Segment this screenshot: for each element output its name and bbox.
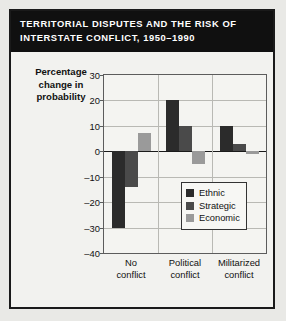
y-tick-label--10: –10 (84, 171, 100, 182)
legend-item-economic: Economic (186, 212, 240, 225)
bar-strategic-political-conflict (179, 126, 192, 151)
y-axis-title-line-3: probability (23, 91, 99, 104)
chart-title-bar: TERRITORIAL DISPUTES AND THE RISK OF INT… (11, 11, 273, 52)
legend-label-economic: Economic (199, 213, 240, 223)
bar-ethnic-no-conflict (112, 151, 125, 227)
y-tick-mark-30 (100, 75, 104, 76)
x-axis-label-1-line-1: Political (158, 257, 212, 269)
x-axis-label-0-line-1: No (104, 257, 158, 269)
x-axis-label-1: Politicalconflict (158, 257, 212, 282)
legend-label-ethnic: Ethnic (199, 188, 225, 198)
y-tick-mark--10 (100, 177, 104, 178)
y-tick-mark--20 (100, 202, 104, 203)
y-axis-title-line-1: Percentage (23, 66, 99, 79)
y-tick-label--20: –20 (84, 197, 100, 208)
chart-title-line-1: TERRITORIAL DISPUTES AND THE RISK OF (20, 17, 264, 31)
y-tick-label-20: 20 (90, 95, 100, 106)
gridline-20 (104, 100, 266, 101)
x-axis-label-0: Noconflict (104, 257, 158, 282)
x-axis-label-2-line-2: conflict (212, 269, 266, 281)
y-axis-title-line-2: change in (23, 79, 99, 92)
bar-ethnic-political-conflict (166, 100, 179, 151)
bar-strategic-no-conflict (125, 151, 138, 187)
y-tick-mark-0 (100, 151, 104, 152)
chart-legend: Ethnic Strategic Economic (181, 182, 247, 230)
y-tick-mark--40 (100, 253, 104, 254)
y-tick-mark--30 (100, 228, 104, 229)
y-tick-mark-20 (100, 100, 104, 101)
category-divider-1 (158, 75, 159, 253)
bar-ethnic-militarized-conflict (220, 126, 233, 151)
legend-item-ethnic: Ethnic (186, 187, 240, 200)
x-axis-label-2-line-1: Militarized (212, 257, 266, 269)
bar-strategic-militarized-conflict (233, 144, 246, 152)
y-tick-label-30: 30 (90, 70, 100, 81)
legend-item-strategic: Strategic (186, 200, 240, 213)
x-axis-label-2: Militarizedconflict (212, 257, 266, 282)
x-axis-label-0-line-2: conflict (104, 269, 158, 281)
y-tick-mark-10 (100, 126, 104, 127)
y-axis-title: Percentage change in probability (23, 66, 99, 104)
chart-title-line-2: INTERSTATE CONFLICT, 1950–1990 (20, 31, 264, 45)
figure-panel: TERRITORIAL DISPUTES AND THE RISK OF INT… (9, 9, 275, 309)
y-tick-label--40: –40 (84, 248, 100, 259)
bar-economic-no-conflict (138, 133, 151, 151)
y-tick-label--30: –30 (84, 222, 100, 233)
legend-swatch-ethnic (186, 189, 194, 197)
x-axis-label-1-line-2: conflict (158, 269, 212, 281)
legend-swatch-strategic (186, 202, 194, 210)
y-tick-label-10: 10 (90, 120, 100, 131)
legend-swatch-economic (186, 214, 194, 222)
legend-label-strategic: Strategic (199, 201, 236, 211)
y-tick-label-0: 0 (95, 146, 100, 157)
bar-economic-political-conflict (192, 151, 205, 164)
bar-economic-militarized-conflict (246, 151, 259, 154)
plot-area: 3020100–10–20–30–40 NoconflictPoliticalc… (103, 74, 267, 254)
